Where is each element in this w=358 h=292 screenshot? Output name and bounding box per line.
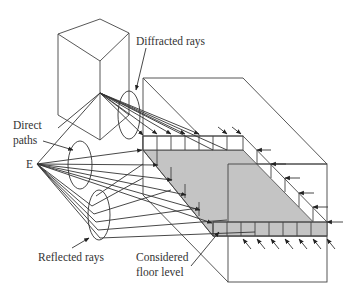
direct-paths-label-line2: paths: [13, 133, 37, 147]
diffracted-rays-label: Diffracted rays: [136, 34, 205, 48]
floor-level-label-line2: floor level: [136, 265, 184, 279]
reflected-ellipse: [88, 190, 110, 240]
direct-paths-label-line1: Direct: [13, 118, 42, 132]
reflected-rays-label: Reflected rays: [38, 250, 104, 264]
incident-arrows-bottom: [243, 239, 335, 249]
emitter-label: E: [26, 157, 33, 171]
floor-slab: [143, 136, 327, 236]
floor-level-label-line1: Considered: [136, 250, 188, 264]
direct-pointer: [43, 141, 73, 150]
reflected-pointer: [72, 238, 89, 248]
direct-ellipse: [68, 141, 92, 189]
diffracted-pointer: [136, 48, 146, 90]
